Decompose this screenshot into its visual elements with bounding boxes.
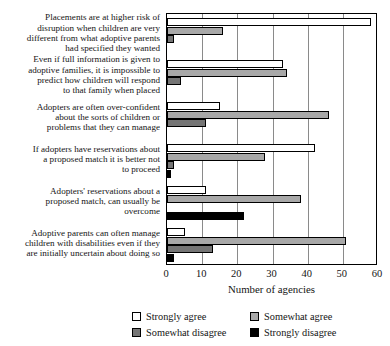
category-label-line: Even if full information is given to: [0, 54, 160, 64]
bar: [167, 111, 329, 119]
plot-area: [166, 13, 377, 265]
category-label-line: Adopters are often over-confident: [0, 102, 160, 112]
legend-item[interactable]: Strongly agree: [132, 311, 250, 322]
bar-group: [167, 14, 376, 56]
legend-label: Somewhat agree: [264, 311, 332, 322]
x-tick-label: 10: [196, 268, 207, 280]
category-label-line: had specified they wanted: [0, 43, 160, 53]
category-label-line: predict how children will respond: [0, 75, 160, 85]
category-label-line: proposed match, can usually be: [0, 196, 160, 206]
category-label-line: to that family when placed: [0, 85, 160, 95]
bar-chart: Placements are at higher risk ofdisrupti…: [0, 0, 390, 346]
legend-swatch-icon: [132, 328, 141, 337]
bar-group: [167, 182, 376, 224]
value-axis-ticks: 0102030405060: [0, 268, 390, 282]
x-tick-label: 0: [163, 268, 168, 280]
bar: [167, 153, 265, 161]
bar: [167, 102, 220, 110]
category-label-line: Adoptive parents can often manage: [0, 228, 160, 238]
category-label: Even if full information is given toadop…: [0, 54, 160, 95]
category-label-line: children with disabilities even if they: [0, 238, 160, 248]
bar: [167, 237, 346, 245]
x-tick-label: 60: [372, 268, 383, 280]
bar-group: [167, 98, 376, 140]
category-label-line: Adopters' reservations about a: [0, 186, 160, 196]
category-label-line: disruption when children are very: [0, 23, 160, 33]
legend-item[interactable]: Somewhat disagree: [132, 327, 250, 338]
category-axis-labels: Placements are at higher risk ofdisrupti…: [0, 13, 163, 265]
category-label: If adopters have reservations abouta pro…: [0, 144, 160, 175]
legend-label: Strongly agree: [146, 311, 206, 322]
x-tick-label: 20: [231, 268, 242, 280]
category-label: Adoptive parents can often managechildre…: [0, 228, 160, 259]
legend: Strongly agreeSomewhat agreeSomewhat dis…: [132, 308, 382, 340]
category-label-line: problems that they can manage: [0, 122, 160, 132]
bar: [167, 119, 206, 127]
category-label-line: to proceed: [0, 164, 160, 174]
bar-group: [167, 224, 376, 266]
bar: [167, 195, 301, 203]
category-label-line: Placements are at higher risk of: [0, 12, 160, 22]
x-tick-label: 40: [301, 268, 312, 280]
legend-item[interactable]: Somewhat agree: [250, 311, 382, 322]
category-label-line: about the sorts of children or: [0, 112, 160, 122]
x-tick-label: 30: [266, 268, 277, 280]
bar-groups: [167, 14, 376, 264]
legend-label: Somewhat disagree: [146, 327, 226, 338]
category-label-line: different from what adoptive parents: [0, 33, 160, 43]
legend-swatch-icon: [132, 312, 141, 321]
bar: [167, 27, 223, 35]
category-label: Adopters' reservations about aproposed m…: [0, 186, 160, 217]
legend-label: Strongly disagree: [264, 327, 336, 338]
bar: [167, 35, 174, 43]
legend-swatch-icon: [250, 328, 259, 337]
category-label: Adopters are often over-confidentabout t…: [0, 102, 160, 133]
category-label-line: are initially uncertain about doing so: [0, 248, 160, 258]
bar: [167, 18, 371, 26]
bar: [167, 161, 174, 169]
category-label-line: a proposed match it is better not: [0, 154, 160, 164]
category-label-line: overcome: [0, 206, 160, 216]
bar: [167, 69, 287, 77]
bar: [167, 77, 181, 85]
bar: [167, 212, 244, 220]
bar: [167, 60, 283, 68]
bar: [167, 186, 206, 194]
x-axis-title: Number of agencies: [166, 283, 377, 295]
bar: [167, 228, 185, 236]
bar: [167, 245, 213, 253]
bar: [167, 170, 171, 178]
x-tick-label: 50: [337, 268, 348, 280]
category-label: Placements are at higher risk ofdisrupti…: [0, 12, 160, 53]
bar-group: [167, 140, 376, 182]
legend-swatch-icon: [250, 312, 259, 321]
category-label-line: adoptive families, it is impossible to: [0, 65, 160, 75]
bar-group: [167, 56, 376, 98]
category-label-line: If adopters have reservations about: [0, 144, 160, 154]
bar: [167, 254, 174, 262]
bar: [167, 144, 315, 152]
legend-item[interactable]: Strongly disagree: [250, 327, 382, 338]
